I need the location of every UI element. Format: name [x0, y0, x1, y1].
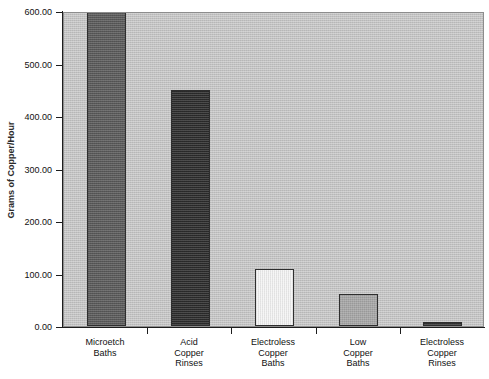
x-axis-tick-label-line: Microetch: [63, 337, 147, 348]
y-axis-tick: [56, 117, 62, 118]
y-axis-tick-label: 400.00: [24, 112, 52, 122]
x-axis-tick-label-line: Copper: [231, 348, 315, 359]
y-axis-tick-label: 300.00: [24, 165, 52, 175]
x-axis-tick: [400, 328, 401, 334]
y-axis-tick-label: 600.00: [24, 7, 52, 17]
x-axis-tick-label-line: Acid: [147, 337, 231, 348]
bar-texture: [424, 323, 461, 325]
x-axis-tick-label-line: Rinses: [147, 358, 231, 369]
x-axis-tick-label-line: Copper: [147, 348, 231, 359]
y-axis-tick: [56, 222, 62, 223]
x-axis-tick-label: LowCopperBaths: [316, 337, 400, 369]
bar-electroless-copper-baths: [255, 269, 294, 326]
x-axis-tick-label: ElectrolessCopperBaths: [231, 337, 315, 369]
bar-texture: [172, 91, 209, 325]
y-axis-tick: [56, 275, 62, 276]
plot-area: [63, 12, 484, 327]
x-axis-tick-label: MicroetchBaths: [63, 337, 147, 358]
x-axis-tick-label-line: Low: [316, 337, 400, 348]
y-axis-tick-label: 500.00: [24, 60, 52, 70]
bar-texture: [88, 12, 125, 325]
x-axis-tick-label-line: Baths: [316, 358, 400, 369]
x-axis-tick-label-line: Electroless: [231, 337, 315, 348]
bar-electroless-copper-rinses: [423, 322, 462, 326]
x-axis-line: [62, 327, 485, 328]
x-axis-tick-label-line: Baths: [63, 348, 147, 359]
bar-acid-copper-rinses: [171, 90, 210, 326]
x-axis-tick-label-line: Rinses: [400, 358, 484, 369]
bar-low-copper-baths: [339, 294, 378, 326]
bar-texture: [340, 295, 377, 325]
bar-chart: Grams of Copper/Hour 600.00500.00400.003…: [0, 0, 489, 379]
x-axis-tick-label: AcidCopperRinses: [147, 337, 231, 369]
x-axis-tick-label-line: Baths: [231, 358, 315, 369]
x-axis-tick-label-line: Copper: [400, 348, 484, 359]
bar-texture: [256, 270, 293, 325]
x-axis-tick: [231, 328, 232, 334]
y-axis-tick: [56, 65, 62, 66]
x-axis-tick: [316, 328, 317, 334]
y-axis-tick-label: 200.00: [24, 217, 52, 227]
y-axis-tick: [56, 170, 62, 171]
bar-microetch-baths: [87, 12, 126, 326]
x-axis-tick-label-line: Electroless: [400, 337, 484, 348]
y-axis-title: Grams of Copper/Hour: [0, 0, 20, 340]
y-axis-tick-label: 0.00: [34, 322, 52, 332]
y-axis-tick: [56, 12, 62, 13]
y-axis-tick-label: 100.00: [24, 270, 52, 280]
x-axis-tick: [147, 328, 148, 334]
x-axis-tick-label: ElectrolessCopperRinses: [400, 337, 484, 369]
x-axis-tick-label-line: Copper: [316, 348, 400, 359]
y-axis-line: [62, 11, 63, 328]
y-axis-title-label: Grams of Copper/Hour: [5, 121, 15, 218]
y-axis-tick: [56, 327, 62, 328]
